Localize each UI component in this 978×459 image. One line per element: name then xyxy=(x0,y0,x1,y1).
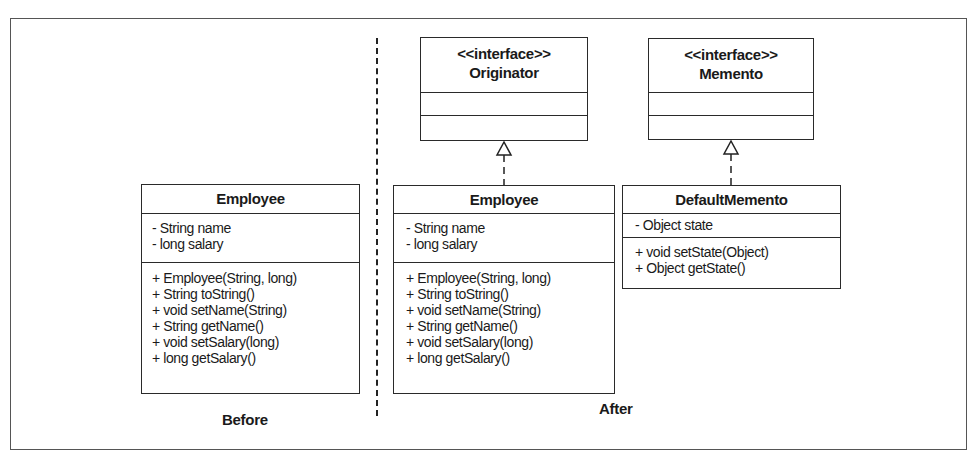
method: + void setName(String) xyxy=(152,302,359,318)
class-header: <<interface>> Originator xyxy=(421,38,587,93)
attribute: - String name xyxy=(152,220,359,236)
method: + Employee(String, long) xyxy=(406,270,614,286)
stereotype: <<interface>> xyxy=(649,45,813,64)
interface-memento: <<interface>> Memento xyxy=(648,38,814,140)
methods-section: + Employee(String, long) + String toStri… xyxy=(394,263,614,366)
method: + String toString() xyxy=(152,286,359,302)
method: + void setSalary(long) xyxy=(152,334,359,350)
class-employee-after: Employee - String name - long salary + E… xyxy=(393,185,615,394)
method: + void setSalary(long) xyxy=(406,334,614,350)
method: + Object getState() xyxy=(635,260,840,276)
realization-arrow-employee-originator xyxy=(494,140,514,186)
before-after-divider xyxy=(376,38,378,416)
caption-before: Before xyxy=(222,411,268,428)
class-name: DefaultMemento xyxy=(623,186,840,214)
attributes-section: - String name - long salary xyxy=(142,214,359,263)
class-header: <<interface>> Memento xyxy=(649,39,813,93)
attribute: - long salary xyxy=(152,236,359,252)
attribute: - String name xyxy=(406,220,614,236)
class-defaultmemento: DefaultMemento - Object state + void set… xyxy=(622,185,841,289)
class-name: Employee xyxy=(142,185,359,214)
methods-section: + void setState(Object) + Object getStat… xyxy=(623,238,840,276)
interface-originator: <<interface>> Originator xyxy=(420,37,588,141)
caption-after: After xyxy=(599,400,633,417)
realization-arrow-defaultmemento-memento xyxy=(721,139,741,186)
class-name: Originator xyxy=(421,63,587,82)
attributes-section xyxy=(421,93,587,116)
class-name: Memento xyxy=(649,64,813,83)
methods-section: + Employee(String, long) + String toStri… xyxy=(142,263,359,366)
class-employee-before: Employee - String name - long salary + E… xyxy=(141,184,360,394)
method: + String toString() xyxy=(406,286,614,302)
method: + long getSalary() xyxy=(152,350,359,366)
method: + long getSalary() xyxy=(406,350,614,366)
attributes-section xyxy=(649,93,813,116)
method: + String getName() xyxy=(152,318,359,334)
method: + Employee(String, long) xyxy=(152,270,359,286)
stereotype: <<interface>> xyxy=(421,44,587,63)
attributes-section: - Object state xyxy=(623,214,840,238)
class-name: Employee xyxy=(394,186,614,214)
attribute: - long salary xyxy=(406,236,614,252)
attributes-section: - String name - long salary xyxy=(394,214,614,263)
method: + String getName() xyxy=(406,318,614,334)
method: + void setName(String) xyxy=(406,302,614,318)
attribute: - Object state xyxy=(635,217,840,233)
method: + void setState(Object) xyxy=(635,244,840,260)
